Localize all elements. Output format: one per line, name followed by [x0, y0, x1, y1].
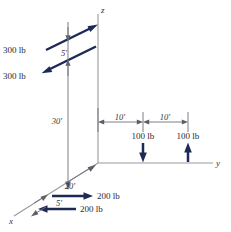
force-200-upper-arrowhead — [84, 192, 94, 199]
dimension-5-bottom-arrowhead-lower — [31, 210, 38, 217]
force-200-lower-label: 200 lb — [80, 204, 103, 214]
force-300-lower-group — [42, 47, 97, 74]
dimension-20-arrowhead — [88, 165, 96, 172]
diagram-canvas: z y x 300 lb 300 lb 5' 30' — [0, 0, 231, 232]
force-300-upper-arrowhead — [88, 25, 99, 32]
free-body-diagram: z y x 300 lb 300 lb 5' 30' — [0, 0, 231, 232]
y-axis-label: y — [215, 158, 220, 168]
force-200-upper-label: 200 lb — [97, 191, 120, 201]
x-axis-label: x — [8, 216, 13, 226]
z-axis-label: z — [100, 5, 105, 15]
dimension-5-bottom-group — [31, 195, 48, 217]
force-100-left-group — [139, 143, 147, 163]
force-300-lower-shaft — [48, 47, 96, 71]
dimension-30-label: 30' — [51, 116, 63, 126]
force-100-right-group — [184, 143, 192, 163]
force-300-lower-label: 300 lb — [3, 71, 26, 81]
dimension-10-right-label: 10' — [160, 112, 171, 122]
force-100-left-label: 100 lb — [132, 131, 155, 141]
dimension-20-label: 20' — [65, 181, 76, 191]
dimension-10-right-arrowhead-end — [182, 120, 188, 125]
dimension-10-left-arrowhead-start — [98, 120, 104, 125]
force-100-right-label: 100 lb — [177, 131, 200, 141]
axis-group — [14, 14, 213, 216]
force-300-upper-label: 300 lb — [3, 45, 26, 55]
dimension-5-top-label: 5' — [61, 48, 67, 58]
dimension-10-left-arrowhead-end — [137, 120, 143, 125]
dimension-10-right-arrowhead-start — [143, 120, 149, 125]
force-300-upper-group — [46, 25, 98, 51]
dimension-5-bottom-arrowhead-upper — [41, 195, 48, 202]
force-100-right-arrowhead — [184, 143, 192, 153]
dimension-10-group — [98, 108, 188, 132]
dimension-5-bottom-label: 5' — [56, 198, 62, 208]
force-300-lower-arrowhead — [42, 66, 53, 73]
dimension-10-left-label: 10' — [115, 112, 126, 122]
force-100-left-arrowhead — [139, 153, 147, 163]
